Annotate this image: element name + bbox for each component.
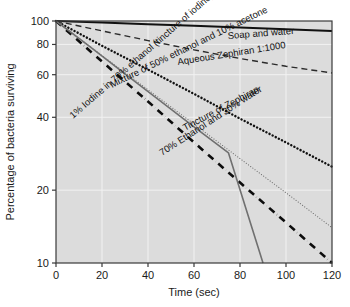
x-tick-label: 20 (96, 269, 108, 281)
y-tick-label: 80 (37, 38, 49, 50)
y-axis-label: Percentage of bacteria surviving (4, 63, 16, 220)
x-axis-label: Time (sec) (168, 286, 220, 298)
y-tick-label: 100 (31, 15, 49, 27)
x-tick-label: 100 (277, 269, 295, 281)
x-tick-label: 120 (323, 269, 341, 281)
x-tick-label: 60 (188, 269, 200, 281)
y-tick-label: 10 (37, 257, 49, 269)
y-tick-label: 40 (37, 111, 49, 123)
bacteria-survival-chart: 020406080100120 1008060402010 Time (sec)… (0, 0, 350, 307)
y-tick-label: 60 (37, 69, 49, 81)
x-tick-label: 0 (53, 269, 59, 281)
x-tick-label: 40 (142, 269, 154, 281)
x-tick-label: 80 (234, 269, 246, 281)
y-tick-label: 20 (37, 184, 49, 196)
